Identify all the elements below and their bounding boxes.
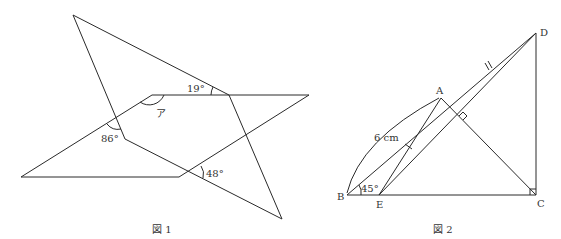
- length-arc: [347, 98, 439, 193]
- label-length: 6 cm: [374, 132, 399, 143]
- segment-ac: [441, 98, 536, 195]
- figure-1-caption: 図 1: [152, 224, 172, 235]
- angle-label-19: 19°: [187, 83, 205, 94]
- label-angle-45: 45°: [361, 183, 379, 194]
- label-c: C: [537, 198, 545, 209]
- figure-2-caption: 図 2: [433, 224, 453, 235]
- diagram-canvas: 19° ア 86° 48° 図 1 B E C D A 6: [0, 0, 561, 239]
- angle-label-86: 86°: [101, 133, 119, 144]
- segment-ae: [379, 98, 441, 195]
- tick-ad-1: [485, 63, 489, 70]
- label-a: A: [435, 85, 444, 96]
- right-angle-mark: [459, 112, 467, 120]
- figure-1: 19° ア 86° 48° 図 1: [21, 15, 309, 235]
- angle-arc-48: [201, 166, 204, 178]
- tick-ad-2: [488, 61, 492, 68]
- shape-1-outline: [73, 15, 282, 219]
- figure-2: B E C D A 6 cm 45° 図 2: [337, 27, 548, 235]
- label-d: D: [540, 27, 548, 38]
- angle-label-48: 48°: [206, 168, 224, 179]
- angle-arc-19: [211, 87, 213, 95]
- label-e: E: [376, 199, 383, 210]
- label-b: B: [337, 191, 344, 202]
- angle-label-a: ア: [156, 108, 166, 119]
- segment-bd: [347, 33, 536, 195]
